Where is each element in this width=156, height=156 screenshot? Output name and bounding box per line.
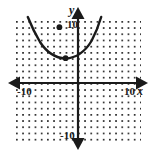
marked-point <box>57 24 63 30</box>
y-max-tick-label: 10 <box>67 18 79 30</box>
x-min-tick-label: -10 <box>17 85 32 97</box>
coordinate-plane-svg: y x -10 10 10 -10 <box>0 0 156 156</box>
vertex-point <box>63 55 69 61</box>
y-min-tick-label: -10 <box>60 129 75 141</box>
x-axis-label: x <box>136 84 143 98</box>
x-max-tick-label: 10 <box>124 85 136 97</box>
y-axis-label: y <box>67 3 75 17</box>
graph-figure: y x -10 10 10 -10 <box>0 0 156 156</box>
